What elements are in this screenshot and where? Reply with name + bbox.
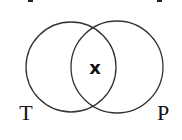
- top-right-fragment: [157, 0, 162, 2]
- set-p-circle: [71, 21, 163, 113]
- set-t-label: T: [19, 100, 33, 125]
- set-p-label: P: [157, 100, 169, 125]
- top-left-fragment: [28, 0, 33, 2]
- intersection-label: x: [89, 57, 101, 78]
- venn-diagram: x T P: [0, 0, 182, 140]
